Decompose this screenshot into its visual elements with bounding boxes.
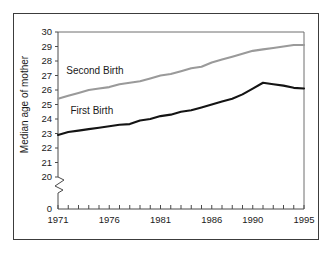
x-tick-label: 1971 [47, 214, 68, 225]
line-chart: 2021222324252627282930019711976198119861… [14, 14, 318, 239]
y-tick-label: 25 [41, 99, 52, 110]
chart-figure-frame: 2021222324252627282930019711976198119861… [13, 13, 319, 240]
x-tick-label: 1986 [201, 214, 222, 225]
series-annotation-first-birth: First Birth [70, 105, 113, 116]
y-axis-title: Median age of mother [19, 55, 30, 153]
x-tick-label: 1976 [99, 214, 120, 225]
y-axis-break-icon [55, 177, 64, 193]
y-tick-label: 21 [41, 157, 52, 168]
y-tick-label-zero: 0 [47, 203, 52, 214]
y-tick-label: 29 [41, 41, 52, 52]
y-tick-label: 20 [41, 171, 52, 182]
x-tick-label: 1981 [150, 214, 171, 225]
x-tick-label: 1995 [293, 214, 314, 225]
series-annotation-second-birth: Second Birth [66, 65, 123, 76]
y-tick-label: 26 [41, 84, 52, 95]
y-tick-label: 30 [41, 26, 52, 37]
y-tick-label: 24 [41, 113, 52, 124]
y-tick-label: 28 [41, 55, 52, 66]
x-tick-label: 1990 [242, 214, 263, 225]
chart-plot-container: 2021222324252627282930019711976198119861… [14, 14, 318, 239]
y-tick-label: 22 [41, 142, 52, 153]
y-tick-label: 27 [41, 70, 52, 81]
y-tick-label: 23 [41, 128, 52, 139]
